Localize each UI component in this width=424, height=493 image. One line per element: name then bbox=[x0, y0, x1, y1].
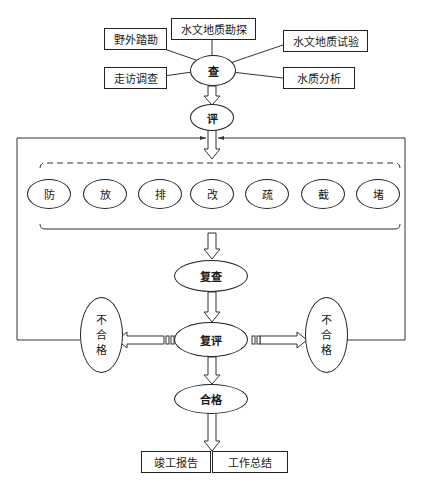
output-completion-report: 竣工报告 bbox=[141, 451, 211, 473]
node-reevaluate: 复评 bbox=[174, 322, 248, 357]
measure-block: 堵 bbox=[356, 179, 400, 209]
node-fail-right: 不 合 格 bbox=[305, 297, 348, 373]
input-hydrogeo-exploration: 水文地质勘探 bbox=[171, 18, 256, 40]
measure-release: 放 bbox=[83, 179, 127, 209]
fail-left-char-1: 不 bbox=[96, 313, 107, 328]
measure-drain: 排 bbox=[138, 179, 182, 209]
input-visit-survey: 走访调查 bbox=[104, 67, 167, 89]
measure-dredge: 疏 bbox=[245, 179, 289, 209]
measure-modify: 改 bbox=[190, 179, 234, 209]
fail-right-char-1: 不 bbox=[321, 313, 332, 328]
fail-left-char-2: 合 bbox=[96, 328, 107, 343]
node-investigate: 查 bbox=[190, 55, 236, 86]
node-fail-left: 不 合 格 bbox=[80, 297, 123, 373]
input-hydrogeo-test: 水文地质试验 bbox=[283, 30, 368, 52]
node-evaluate: 评 bbox=[190, 104, 234, 131]
output-work-summary: 工作总结 bbox=[212, 451, 288, 473]
node-recheck: 复查 bbox=[174, 260, 248, 292]
node-pass: 合格 bbox=[174, 384, 248, 414]
input-field-survey: 野外踏勘 bbox=[104, 28, 167, 50]
fail-left-char-3: 格 bbox=[96, 343, 107, 358]
measure-prevent: 防 bbox=[27, 179, 71, 209]
fail-right-char-3: 格 bbox=[321, 343, 332, 358]
fail-right-char-2: 合 bbox=[321, 328, 332, 343]
measure-intercept: 截 bbox=[301, 179, 345, 209]
input-water-analysis: 水质分析 bbox=[283, 67, 355, 89]
